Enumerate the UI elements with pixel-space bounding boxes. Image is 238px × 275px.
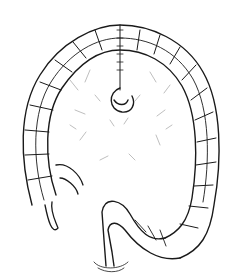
central-loop (111, 88, 133, 112)
anal-ring (94, 262, 128, 272)
colon-illustration (0, 0, 238, 275)
sigmoid-rectum (102, 201, 180, 266)
colon-drawing (0, 0, 238, 275)
ileum-stump (56, 165, 83, 194)
colon-tube (23, 25, 219, 258)
appendix (45, 202, 58, 230)
mesentery-hatching (70, 70, 172, 160)
